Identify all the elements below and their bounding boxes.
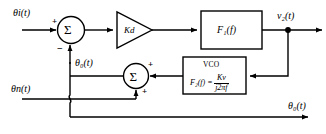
vco-fraction: Kv j2πf xyxy=(214,74,228,92)
label-output-phase: θ₀(t) xyxy=(288,101,306,111)
summer2-sigma: Σ xyxy=(130,70,138,83)
label-vco-title: VCO xyxy=(203,61,219,69)
summer2-plus-sign-right: + xyxy=(148,60,153,69)
label-vco-transfer-function: F₂(f) = Kv j2πf xyxy=(190,74,229,92)
label-noise-phase: θn(t) xyxy=(11,84,30,94)
summer1-sigma: Σ xyxy=(64,23,72,36)
label-filter-output: v₂(t) xyxy=(277,11,294,21)
summer1-minus-sign: − xyxy=(57,44,63,54)
vco-denominator: j2πf xyxy=(214,84,228,92)
label-phase-detector-gain: Kd xyxy=(124,26,135,35)
summer2-plus-sign-bottom: + xyxy=(142,87,147,96)
label-feedback-phase: θ₀(t) xyxy=(75,58,93,68)
wire-feedback-hop-down xyxy=(69,76,71,117)
label-input-phase: θi(t) xyxy=(13,8,30,18)
block-diagram-canvas: Σ Σ + − + + θi(t) θn(t) θ₀(t) v₂(t) θ₀(t… xyxy=(0,0,326,134)
summer1-plus-sign: + xyxy=(52,17,57,26)
label-loop-filter: F₁(f) xyxy=(217,25,236,35)
vco-numerator: Kv xyxy=(216,74,227,82)
vco-lhs: F₂(f) = xyxy=(190,79,213,87)
